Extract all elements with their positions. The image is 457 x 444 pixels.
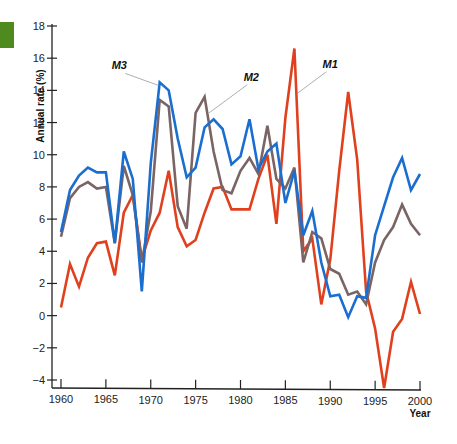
x-tick-label: 1980 (228, 394, 252, 406)
y-tick-label: 6 (39, 213, 45, 225)
series-label-m1: M1 (323, 58, 338, 70)
y-tick-label: 16 (33, 52, 45, 64)
y-tick-label: −2 (32, 342, 45, 354)
x-tick-label: 1995 (363, 395, 387, 407)
y-tick-label: 10 (33, 149, 45, 161)
x-tick-label: 1970 (139, 394, 163, 406)
leader-line-m1 (297, 72, 326, 94)
x-tick-label: 1965 (94, 393, 118, 405)
x-tick-label: 1990 (318, 395, 342, 407)
x-axis-line (52, 388, 421, 390)
line-chart: −4−2024681012141618196019651970197519801… (0, 0, 457, 444)
x-tick-label: 1960 (49, 393, 73, 405)
y-tick-label: 0 (39, 310, 45, 322)
series-line-m1 (61, 49, 420, 389)
y-tick-label: −4 (32, 374, 45, 386)
leader-line-m2 (209, 85, 247, 113)
axes: −4−2024681012141618196019651970197519801… (32, 20, 432, 407)
x-tick-label: 1985 (273, 394, 297, 406)
leader-line-m3 (125, 73, 158, 85)
y-tick-label: 2 (39, 277, 45, 289)
x-tick-label: 1975 (183, 394, 207, 406)
series-label-m3: M3 (112, 59, 127, 71)
series-lines (61, 49, 420, 389)
x-tick-label: 2000 (408, 395, 432, 407)
x-axis-title: Year (409, 408, 430, 419)
y-tick-label: 4 (39, 245, 45, 257)
y-tick-label: 18 (33, 20, 45, 32)
series-label-m2: M2 (244, 71, 259, 83)
series-labels: M1M2M3 (112, 58, 338, 113)
y-axis-title: Annual rate (%) (35, 69, 46, 142)
y-tick-label: 8 (39, 181, 45, 193)
